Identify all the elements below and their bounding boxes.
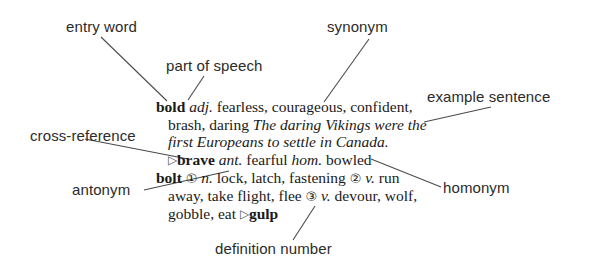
entry-defs-2-cont: away, take flight, flee: [168, 187, 302, 204]
leader-line-part-of-speech: [188, 76, 204, 100]
entry-line-5: bolt ① n. lock, latch, fastening ② v. ru…: [156, 169, 426, 187]
entry-defs-3-cont: gobble, eat: [168, 205, 236, 222]
entry-defs-2-start: run: [379, 169, 400, 186]
leader-line-example-sentence: [424, 107, 491, 122]
entry-line-2: brash, daring The daring Vikings were th…: [156, 116, 426, 134]
entry-defs-3-start: devour, wolf,: [335, 187, 417, 204]
entry-pos-adj: adj.: [189, 98, 213, 115]
leader-line-synonym: [324, 39, 369, 102]
entry-line-6: away, take flight, flee ③ v. devour, wol…: [156, 187, 426, 205]
entry-pos-n: n.: [201, 169, 213, 186]
entry-pos-v-2: v.: [321, 187, 331, 204]
entry-example-line3: first Europeans to settle in Canada.: [168, 133, 389, 150]
label-homonym: homonym: [443, 179, 510, 196]
entry-homonym-bowled: bowled: [326, 151, 372, 168]
entry-cross-reference-gulp: gulp: [249, 205, 278, 222]
entry-antonym-fearful: fearful: [246, 151, 287, 168]
entry-example-line2: The daring Vikings were the: [253, 116, 427, 133]
label-entry-word: entry word: [66, 18, 137, 35]
dictionary-entry: bold adj. fearless, courageous, confiden…: [156, 98, 426, 224]
label-definition-number: definition number: [215, 240, 332, 257]
entry-ant-label: ant.: [219, 151, 243, 168]
label-synonym: synonym: [327, 18, 388, 35]
triangle-bullet-icon-2: ▷: [240, 207, 249, 221]
leader-line-entry-word: [101, 37, 167, 101]
label-example-sentence: example sentence: [427, 88, 550, 105]
entry-line-1: bold adj. fearless, courageous, confiden…: [156, 98, 426, 116]
definition-number-2: ②: [350, 171, 362, 186]
entry-synonyms-line2: brash, daring: [168, 116, 249, 133]
diagram-canvas: entry word part of speech synonym exampl…: [0, 0, 590, 276]
entry-line-4: ▷brave ant. fearful hom. bowled: [156, 151, 426, 170]
triangle-bullet-icon: ▷: [168, 153, 177, 167]
entry-hom-label: hom.: [292, 151, 323, 168]
entry-line-3: first Europeans to settle in Canada.: [156, 133, 426, 151]
label-antonym: antonym: [72, 181, 130, 198]
definition-number-3: ③: [306, 189, 318, 204]
entry-defs-1: lock, latch, fastening: [217, 169, 346, 186]
entry-cross-reference-brave: brave: [177, 151, 215, 168]
label-part-of-speech: part of speech: [166, 57, 262, 74]
entry-synonyms-line1: fearless, courageous, confident,: [217, 98, 413, 115]
label-cross-reference: cross-reference: [30, 127, 136, 144]
entry-line-7: gobble, eat ▷gulp: [156, 205, 426, 224]
entry-headword-bold: bold: [156, 98, 185, 115]
entry-headword-bolt: bolt: [156, 169, 182, 186]
definition-number-1: ①: [186, 171, 198, 186]
entry-pos-v-1: v.: [365, 169, 375, 186]
